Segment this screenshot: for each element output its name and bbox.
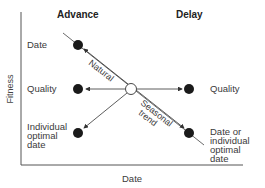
individual-date-arrow xyxy=(84,93,127,128)
left-quality-label: Quality xyxy=(27,84,57,94)
right-quality-label: Quality xyxy=(210,84,240,94)
delay-quality-dot xyxy=(184,84,194,94)
left-date-label: Date xyxy=(27,40,47,50)
right-date-label-4: date xyxy=(210,154,229,164)
phenology-diagram: Natural Seasonal trend Advance Delay Dat… xyxy=(0,0,265,188)
left-individual-label-3: date xyxy=(27,140,46,150)
advance-individual-date-dot xyxy=(73,128,83,138)
x-axis-label: Date xyxy=(122,174,142,184)
origin-circle xyxy=(126,84,137,95)
y-axis-label: Fitness xyxy=(5,74,15,104)
delay-date-dot xyxy=(184,128,194,138)
advance-date-dot xyxy=(73,40,83,50)
advance-quality-dot xyxy=(73,84,83,94)
advance-header: Advance xyxy=(57,9,99,20)
delay-header: Delay xyxy=(176,9,203,20)
